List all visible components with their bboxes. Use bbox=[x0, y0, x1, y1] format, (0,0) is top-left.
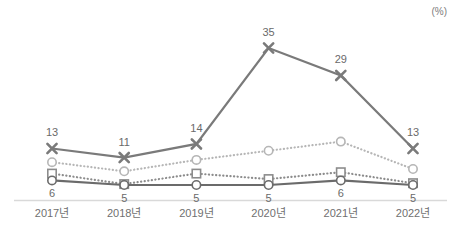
data-point-marker-circle bbox=[264, 181, 272, 189]
data-point-value-label: 14 bbox=[190, 122, 202, 134]
chart-plot-area bbox=[0, 0, 461, 232]
data-point-value-label: 6 bbox=[338, 187, 344, 199]
data-point-value-label: 13 bbox=[407, 126, 419, 138]
data-point-marker-circle bbox=[337, 137, 345, 145]
data-point-value-label: 5 bbox=[193, 192, 199, 204]
data-point-value-label: 35 bbox=[262, 26, 274, 38]
chart-series-series-circle-light-dotted bbox=[48, 137, 417, 175]
data-point-marker-circle bbox=[48, 176, 56, 184]
x-tick-label: 2022년 bbox=[396, 204, 430, 220]
data-point-value-label: 5 bbox=[410, 192, 416, 204]
x-axis-tick-labels: 2017년2018년2019년2020년2021년2022년 bbox=[0, 204, 461, 226]
data-point-value-label: 6 bbox=[49, 187, 55, 199]
data-point-value-label: 13 bbox=[46, 126, 58, 138]
data-point-marker-circle bbox=[409, 165, 417, 173]
data-point-value-label: 5 bbox=[266, 192, 272, 204]
x-tick-label: 2017년 bbox=[35, 204, 69, 220]
data-point-marker-square bbox=[337, 168, 345, 176]
data-point-marker-x bbox=[336, 71, 345, 80]
data-point-marker-circle bbox=[120, 167, 128, 175]
data-point-marker-circle bbox=[120, 181, 128, 189]
data-point-marker-circle bbox=[337, 176, 345, 184]
series-line bbox=[52, 142, 413, 172]
data-point-marker-circle bbox=[409, 181, 417, 189]
chart-series-series-circle-solid-dark bbox=[48, 176, 417, 189]
x-tick-label: 2020년 bbox=[251, 204, 285, 220]
x-tick-label: 2018년 bbox=[107, 204, 141, 220]
data-point-value-label: 11 bbox=[118, 136, 129, 148]
series-line bbox=[52, 48, 413, 158]
data-point-marker-circle bbox=[192, 181, 200, 189]
data-point-marker-x bbox=[408, 144, 417, 153]
data-point-value-label: 29 bbox=[335, 53, 347, 65]
chart-series-series-x-solid-dark bbox=[47, 43, 417, 162]
x-tick-label: 2021년 bbox=[324, 204, 358, 220]
data-point-value-label: 5 bbox=[121, 192, 127, 204]
chart-container: (%) 2017년2018년2019년2020년2021년2022년 13111… bbox=[0, 0, 461, 232]
data-point-marker-circle bbox=[264, 147, 272, 155]
data-point-marker-x bbox=[264, 43, 273, 52]
x-tick-label: 2019년 bbox=[179, 204, 213, 220]
data-point-marker-circle bbox=[48, 158, 56, 166]
data-point-marker-square bbox=[192, 169, 200, 177]
data-point-marker-circle bbox=[192, 156, 200, 164]
